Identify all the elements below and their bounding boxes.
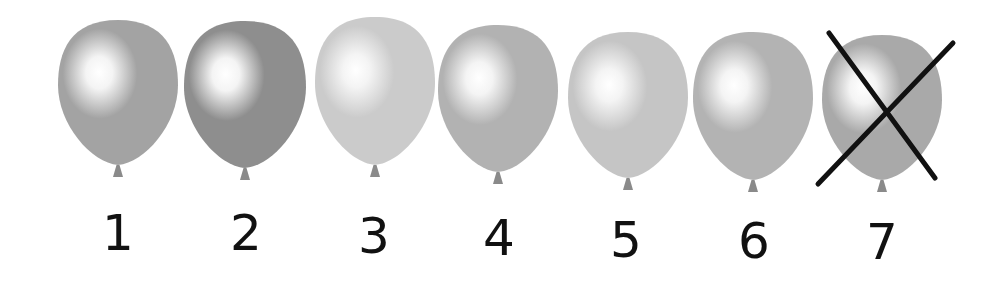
balloon-body bbox=[693, 32, 813, 180]
balloon-body bbox=[315, 17, 435, 165]
balloon-body bbox=[58, 20, 178, 165]
balloon-body bbox=[438, 25, 558, 172]
balloon-number-2: 2 bbox=[221, 208, 271, 258]
balloon-body bbox=[568, 32, 688, 178]
balloon-knot bbox=[748, 180, 758, 192]
balloon-knot bbox=[370, 165, 380, 177]
balloon-number-6: 6 bbox=[729, 216, 779, 266]
balloon-body bbox=[184, 21, 306, 168]
balloon-knot bbox=[113, 165, 123, 177]
balloon-knot bbox=[623, 178, 633, 190]
balloon-number-7: 7 bbox=[857, 217, 907, 267]
balloon-6 bbox=[693, 32, 813, 192]
balloon-number-4: 4 bbox=[474, 213, 524, 263]
balloon-1 bbox=[58, 20, 178, 177]
balloon-2 bbox=[184, 21, 306, 180]
balloon-7 bbox=[822, 35, 942, 192]
balloon-3 bbox=[315, 17, 435, 177]
balloon-counting-stage: 1 2 3 4 5 6 7 bbox=[0, 0, 1000, 284]
balloon-knot bbox=[877, 180, 887, 192]
balloon-number-3: 3 bbox=[349, 211, 399, 261]
balloon-knot bbox=[240, 168, 250, 180]
balloon-knot bbox=[493, 172, 503, 184]
balloon-number-5: 5 bbox=[601, 215, 651, 265]
balloon-4 bbox=[438, 25, 558, 184]
balloon-number-1: 1 bbox=[93, 208, 143, 258]
balloon-5 bbox=[568, 32, 688, 190]
